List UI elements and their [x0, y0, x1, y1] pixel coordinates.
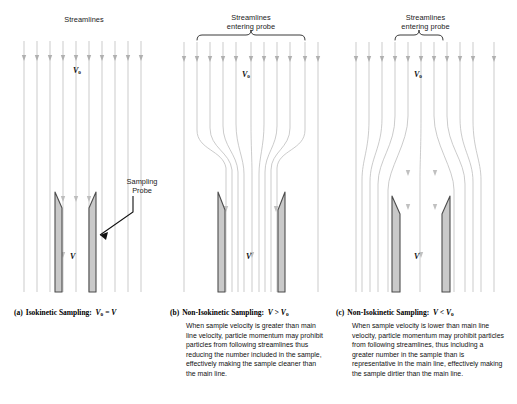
caption-b-formula-right-sub: o: [286, 311, 289, 317]
probe-wall-right-c: [442, 196, 450, 292]
caption-b-formula-rel: >: [275, 308, 279, 317]
velocity-label-main-c: Vo: [414, 70, 422, 79]
figure-canvas: Streamlines: [0, 0, 517, 404]
caption-a-formula-right: V: [111, 308, 116, 317]
caption-b-text: Non-Isokinetic Sampling:: [182, 308, 264, 317]
streamline-group: [24, 41, 141, 292]
annotation-line-2: Probe: [132, 186, 152, 195]
sampling-probe-arrowhead: [100, 232, 108, 240]
panel-isokinetic: Streamlines: [0, 0, 168, 404]
caption-c-formula-main: V: [433, 308, 438, 317]
velocity-label-probe-b: V: [246, 252, 251, 261]
streamline-arrowheads-c-mid: [406, 170, 437, 258]
streamline-arrowheads-c: [354, 56, 496, 62]
caption-b-formula-main: V: [268, 308, 273, 317]
caption-a-label: (a): [14, 308, 23, 317]
panel-a-diagram: [0, 0, 168, 300]
streamline-arrowheads-b: [182, 56, 320, 62]
caption-b: (b)Non-Isokinetic Sampling: V > Vo: [170, 308, 289, 317]
caption-c-text: Non-Isokinetic Sampling:: [347, 308, 429, 317]
entering-probe-bracket-c: [395, 30, 443, 40]
panel-c-diagram: [334, 0, 517, 300]
sampling-probe-annotation: Sampling Probe: [118, 177, 166, 196]
caption-c-formula-rel: <: [440, 308, 444, 317]
velocity-label-main-b: Vo: [242, 70, 250, 79]
caption-c: (c)Non-Isokinetic Sampling: V < Vo: [336, 308, 454, 317]
annotation-line-1: Sampling: [127, 177, 158, 186]
probe-wall-right: [89, 192, 96, 292]
velocity-label-main-a: Vo: [73, 66, 81, 75]
entering-probe-bracket: [197, 30, 305, 40]
probe-wall-left-c: [392, 196, 400, 292]
caption-a-formula-rel: =: [105, 308, 109, 317]
caption-a: (a)Isokinetic Sampling: Vo = V: [14, 308, 116, 317]
caption-c-label: (c): [336, 308, 344, 317]
caption-b-label: (b): [170, 308, 179, 317]
probe-wall-right-b: [278, 192, 285, 292]
panel-c-description: When sample velocity is lower than main …: [352, 321, 504, 379]
probe-wall-left-b: [218, 192, 225, 292]
caption-a-text: Isokinetic Sampling:: [26, 308, 92, 317]
velocity-label-probe-a: V: [70, 252, 75, 261]
caption-c-formula-right-sub: o: [451, 311, 454, 317]
caption-a-formula-main: V: [96, 308, 101, 317]
probe-wall-left: [55, 192, 62, 292]
panel-b-description: When sample velocity is greater than mai…: [186, 321, 326, 379]
streamline-arrowheads: [22, 55, 143, 61]
caption-a-formula-sub: o: [101, 311, 104, 317]
velocity-label-probe-c: V: [414, 252, 419, 261]
